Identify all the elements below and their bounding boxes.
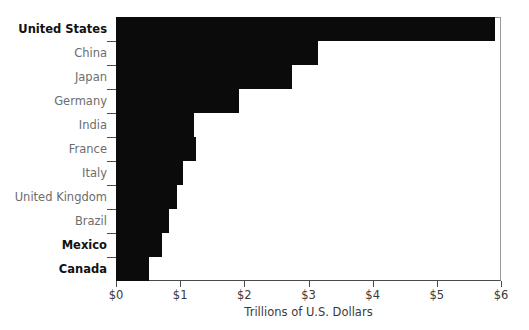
y-axis-tick	[107, 137, 116, 138]
y-axis-tick	[107, 233, 116, 234]
y-axis-tick	[107, 185, 116, 186]
bars-layer	[116, 17, 501, 281]
x-axis-tick-label: $3	[289, 288, 329, 302]
y-axis-tick	[107, 257, 116, 258]
x-axis-tick-label: $4	[353, 288, 393, 302]
y-axis-tick	[107, 65, 116, 66]
x-axis-tick-label: $6	[481, 288, 521, 302]
bar	[116, 209, 169, 233]
bar-row	[116, 113, 501, 137]
bar-row	[116, 185, 501, 209]
bar	[116, 89, 239, 113]
bar-row	[116, 161, 501, 185]
bar	[116, 185, 177, 209]
bar-row	[116, 89, 501, 113]
bar-chart: United StatesChinaJapanGermanyIndiaFranc…	[0, 0, 529, 330]
bar	[116, 41, 318, 65]
category-label: France	[0, 137, 112, 161]
y-axis-tick	[107, 209, 116, 210]
bar-row	[116, 41, 501, 65]
y-axis-tick	[107, 41, 116, 42]
y-axis-tick	[107, 89, 116, 90]
bar	[116, 17, 495, 41]
bar	[116, 161, 183, 185]
category-axis-labels: United StatesChinaJapanGermanyIndiaFranc…	[0, 17, 112, 281]
category-label: Canada	[0, 257, 112, 281]
category-label: Brazil	[0, 209, 112, 233]
bar-row	[116, 137, 501, 161]
category-label: United Kingdom	[0, 185, 112, 209]
x-axis-tick	[501, 281, 502, 287]
bar	[116, 65, 292, 89]
bar-row	[116, 209, 501, 233]
x-axis-tick	[116, 281, 117, 287]
category-label: Mexico	[0, 233, 112, 257]
category-label: India	[0, 113, 112, 137]
bar-row	[116, 17, 501, 41]
bar-row	[116, 65, 501, 89]
y-axis-tick	[107, 113, 116, 114]
x-axis-tick	[373, 281, 374, 287]
bar-row	[116, 233, 501, 257]
x-axis-tick-label: $5	[417, 288, 457, 302]
category-label: Germany	[0, 89, 112, 113]
x-axis-tick-label: $2	[224, 288, 264, 302]
category-label: China	[0, 41, 112, 65]
bar	[116, 233, 162, 257]
category-label: United States	[0, 17, 112, 41]
category-label: Italy	[0, 161, 112, 185]
x-axis-tick-label: $1	[160, 288, 200, 302]
x-axis-tick	[309, 281, 310, 287]
y-axis-tick	[107, 161, 116, 162]
category-label: Japan	[0, 65, 112, 89]
x-axis-tick	[244, 281, 245, 287]
x-axis-title: Trillions of U.S. Dollars	[116, 305, 501, 319]
bar	[116, 137, 196, 161]
bar-row	[116, 257, 501, 281]
bar	[116, 257, 149, 281]
x-axis-tick-label: $0	[96, 288, 136, 302]
x-axis-tick	[437, 281, 438, 287]
bar	[116, 113, 194, 137]
x-axis-tick	[180, 281, 181, 287]
